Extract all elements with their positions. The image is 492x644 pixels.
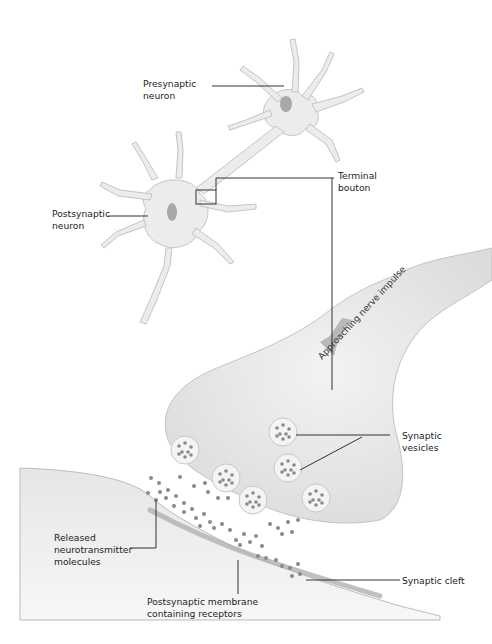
presynaptic-nucleus bbox=[280, 96, 292, 112]
label-terminal-bouton: Terminal bouton bbox=[338, 170, 377, 194]
label-presynaptic-neuron: Presynaptic neuron bbox=[143, 78, 196, 102]
label-postsynaptic-neuron: Postsynaptic neuron bbox=[52, 208, 110, 232]
postsynaptic-nucleus bbox=[167, 203, 177, 221]
label-postsynaptic-membrane: Postsynaptic membrane containing recepto… bbox=[147, 596, 258, 620]
label-synaptic-cleft: Synaptic cleft bbox=[402, 575, 465, 587]
label-synaptic-vesicles: Synaptic vesicles bbox=[402, 430, 442, 454]
label-released-neurotransmitter: Released neurotransmitter molecules bbox=[54, 532, 132, 568]
